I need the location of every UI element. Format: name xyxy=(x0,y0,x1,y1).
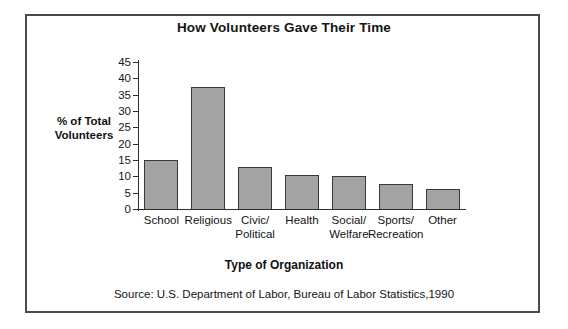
y-tick-mark xyxy=(133,95,138,96)
y-tick-mark xyxy=(133,111,138,112)
y-tick-mark xyxy=(133,127,138,128)
plot-area: 051015202530354045 SchoolReligiousCivic/… xyxy=(138,62,466,209)
chart-title: How Volunteers Gave Their Time xyxy=(0,20,568,35)
y-tick-label: 0 xyxy=(109,203,131,215)
y-tick-label: 5 xyxy=(109,187,131,199)
y-tick-mark xyxy=(133,144,138,145)
source-note: Source: U.S. Department of Labor, Bureau… xyxy=(0,288,568,300)
y-tick-label: 15 xyxy=(109,154,131,166)
bar xyxy=(191,87,225,210)
chart-figure: How Volunteers Gave Their Time % of Tota… xyxy=(0,0,568,329)
y-tick-label: 20 xyxy=(109,138,131,150)
y-tick-mark xyxy=(133,209,138,210)
y-tick-mark xyxy=(133,78,138,79)
y-tick-mark xyxy=(133,193,138,194)
bar xyxy=(379,184,413,209)
x-tick-label: Other xyxy=(413,214,472,228)
bar xyxy=(285,175,319,209)
y-axis-line xyxy=(138,60,139,211)
y-tick-mark xyxy=(133,62,138,63)
bar xyxy=(144,160,178,209)
y-tick-mark xyxy=(133,176,138,177)
x-axis-title: Type of Organization xyxy=(0,258,568,272)
y-tick-mark xyxy=(133,160,138,161)
bar xyxy=(332,176,366,209)
y-tick-label: 30 xyxy=(109,105,131,117)
bar xyxy=(426,189,460,209)
y-tick-label: 35 xyxy=(109,89,131,101)
y-tick-label: 25 xyxy=(109,121,131,133)
bar xyxy=(238,167,272,209)
y-tick-label: 40 xyxy=(109,72,131,84)
x-axis-line xyxy=(138,209,466,210)
y-tick-label: 10 xyxy=(109,170,131,182)
y-tick-label: 45 xyxy=(109,56,131,68)
